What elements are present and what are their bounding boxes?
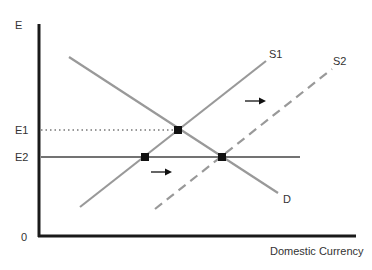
supply2-label: S2: [333, 56, 346, 67]
diagram-canvas: [0, 0, 372, 270]
e1-label: E1: [15, 125, 28, 136]
shift-arrow-lower: [151, 169, 172, 176]
supply2-curve: [155, 69, 332, 209]
point-s1-e2: [141, 153, 149, 161]
demand-label: D: [283, 194, 291, 205]
shift-arrow-upper: [245, 98, 266, 105]
y-axis-label: E: [15, 20, 22, 31]
equilibrium-point-e1: [174, 126, 182, 134]
supply1-label: S1: [269, 49, 282, 60]
equilibrium-point-e2: [218, 153, 226, 161]
x-axis-label: Domestic Currency: [270, 246, 364, 257]
e2-label: E2: [15, 152, 28, 163]
origin-label: 0: [21, 232, 27, 243]
